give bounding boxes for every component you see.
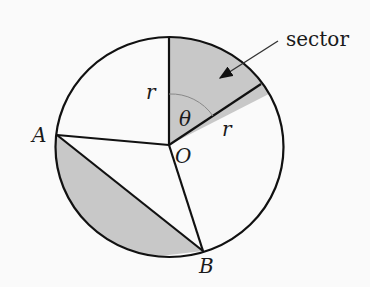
- theta-label: θ: [179, 107, 191, 131]
- radius-oa: [57, 135, 169, 145]
- sector-label: sector: [286, 27, 349, 51]
- diagram-canvas: sector r r θ O A B: [0, 0, 370, 287]
- point-a-label: A: [30, 123, 46, 147]
- circle-diagram: sector r r θ O A B: [0, 0, 370, 287]
- point-b-label: B: [198, 254, 214, 278]
- center-label: O: [175, 144, 191, 168]
- radius-label-slanted: r: [222, 117, 233, 141]
- radius-label-vertical: r: [146, 80, 157, 104]
